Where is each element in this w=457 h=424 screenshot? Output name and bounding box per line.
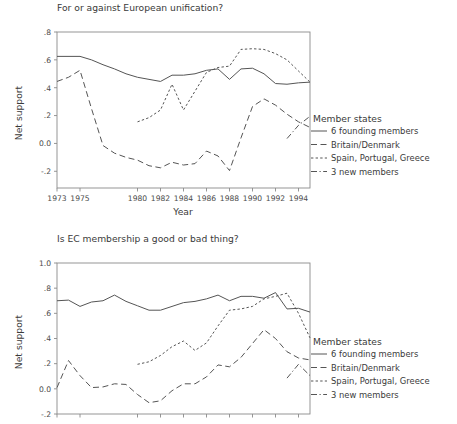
legend-label-britain-denmark: Britain/Denmark <box>331 140 400 150</box>
chart-title-bottom: Is EC membership a good or bad thing? <box>57 233 239 244</box>
x-tick-label: 1973 <box>47 194 66 203</box>
y-tick-label: 1.0 <box>39 259 51 268</box>
x-tick-label: 1982 <box>151 194 170 203</box>
legend-bottom: Member states 6 founding membersBritain/… <box>311 336 430 400</box>
legend-title-bottom: Member states <box>313 336 382 347</box>
y-axis-label-top: Net support <box>13 85 24 140</box>
legend-label-spain-portugal-greece: Spain, Portugal, Greece <box>331 376 430 386</box>
chart-panel-membership: Is EC membership a good or bad thing? Ne… <box>0 222 457 424</box>
y-tick-label: .8 <box>44 28 51 37</box>
series-line-britain-denmark <box>57 70 310 170</box>
y-tick-label: 0.0 <box>39 139 51 148</box>
y-tick-label: .6 <box>44 309 51 318</box>
membership-chart-svg: Is EC membership a good or bad thing? Ne… <box>0 222 457 424</box>
y-tick-label: .2 <box>44 111 51 120</box>
x-tick-label: 1984 <box>174 194 193 203</box>
y-tick-label: .2 <box>44 359 51 368</box>
x-tick-label: 1992 <box>266 194 285 203</box>
legend-label-6-founding-members: 6 founding members <box>331 126 418 136</box>
chart-panel-unification: For or against European unification? Net… <box>0 0 457 222</box>
series-line-6-founding-members <box>57 56 310 84</box>
legend-top: Member states 6 founding membersBritain/… <box>311 113 430 177</box>
unification-chart-svg: For or against European unification? Net… <box>0 0 457 222</box>
legend-label-6-founding-members: 6 founding members <box>331 349 418 359</box>
y-tick-label: .4 <box>44 334 51 343</box>
y-axis-label-bottom: Net support <box>13 314 24 369</box>
legend-label-3-new-members: 3 new members <box>331 390 399 400</box>
y-tick-label: .8 <box>44 284 51 293</box>
y-tick-label: -.2 <box>41 410 51 419</box>
plot-area-top: .8.6.4.20.0-.219731975198019821984198619… <box>39 28 310 203</box>
legend-title-top: Member states <box>313 113 382 124</box>
legend-label-britain-denmark: Britain/Denmark <box>331 363 400 373</box>
y-tick-label: 0.0 <box>39 385 51 394</box>
y-tick-label: -.2 <box>41 167 51 176</box>
x-tick-label: 1975 <box>70 194 89 203</box>
x-axis-label-top: Year <box>172 206 193 217</box>
series-line-3-new-members <box>287 116 310 138</box>
y-tick-label: .4 <box>44 84 51 93</box>
x-tick-label: 1980 <box>128 194 147 203</box>
x-tick-label: 1994 <box>289 194 308 203</box>
series-line-spain-portugal-greece <box>138 49 311 122</box>
x-tick-label: 1990 <box>243 194 262 203</box>
x-tick-label: 1988 <box>220 194 239 203</box>
y-tick-label: .6 <box>44 56 51 65</box>
series-line-spain-portugal-greece <box>138 293 311 364</box>
chart-title-top: For or against European unification? <box>57 2 223 13</box>
legend-label-spain-portugal-greece: Spain, Portugal, Greece <box>331 153 430 163</box>
legend-label-3-new-members: 3 new members <box>331 167 399 177</box>
series-line-3-new-members <box>287 364 310 378</box>
x-tick-label: 1986 <box>197 194 216 203</box>
plot-area-bottom: 1.0.8.6.4.20.0-.2 <box>39 259 310 419</box>
series-line-6-founding-members <box>57 293 310 313</box>
